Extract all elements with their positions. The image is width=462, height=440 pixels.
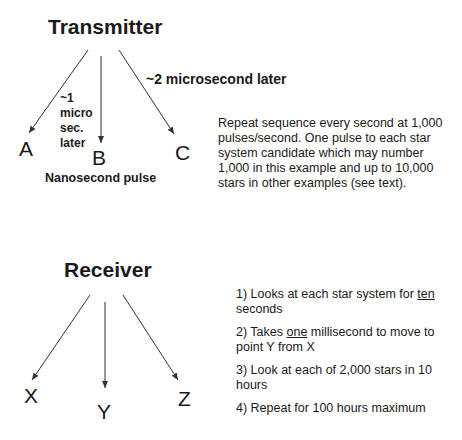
transmitter-title: Transmitter — [48, 15, 162, 39]
step-text: 4) Repeat for 100 hours maximum — [236, 401, 426, 415]
step-text: seconds — [236, 302, 283, 316]
delay-line: ~1 — [60, 91, 93, 106]
receiver-title: Receiver — [64, 258, 152, 282]
node-a: A — [19, 137, 33, 161]
delay-line: later — [60, 136, 93, 151]
delay-line: micro — [60, 106, 93, 121]
pulse-label: Nanosecond pulse — [45, 171, 156, 185]
step-3: 3) Look at each of 2,000 stars in 10 hou… — [236, 363, 451, 393]
arrow-to-c — [119, 50, 174, 134]
arrow-to-x — [32, 295, 90, 380]
step-text: 2) Takes — [236, 325, 287, 339]
transmitter-description: Repeat sequence every second at 1,000 pu… — [218, 116, 458, 191]
step-emphasis: ten — [417, 287, 434, 301]
step-2: 2) Takes one millisecond to move to poin… — [236, 325, 451, 355]
node-x: X — [24, 384, 38, 408]
step-4: 4) Repeat for 100 hours maximum — [236, 401, 451, 416]
delay-line: sec. — [60, 121, 93, 136]
receiver-steps: 1) Looks at each star system for ten sec… — [236, 287, 451, 424]
node-y: Y — [97, 400, 111, 424]
node-z: Z — [178, 387, 191, 411]
step-text: 3) Look at each of 2,000 stars in 10 hou… — [236, 363, 432, 392]
node-b: B — [92, 146, 106, 170]
delay-label-2: ~2 microsecond later — [146, 71, 286, 87]
step-text: 1) Looks at each star system for — [236, 287, 417, 301]
delay-label-1: ~1 micro sec. later — [60, 91, 93, 151]
step-emphasis: one — [287, 325, 308, 339]
step-1: 1) Looks at each star system for ten sec… — [236, 287, 451, 317]
arrow-to-z — [123, 295, 178, 380]
node-c: C — [175, 141, 190, 165]
